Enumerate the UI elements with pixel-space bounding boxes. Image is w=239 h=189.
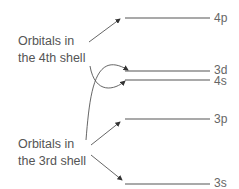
orbital-label-3p: 3p: [214, 112, 227, 126]
orbital-label-3s: 3s: [214, 176, 227, 189]
orbital-label-4p: 4p: [214, 11, 227, 25]
label-3rd-shell: Orbitals in the 3rd shell: [18, 136, 86, 170]
arrow-4th-to-4p: [89, 19, 120, 42]
label-line: the 4th shell: [18, 50, 85, 67]
arrow-3rd-to-3s: [91, 155, 122, 180]
arrow-3rd-to-3p: [91, 122, 120, 145]
label-line: Orbitals in: [18, 136, 86, 153]
label-line: the 3rd shell: [18, 153, 86, 170]
arrow-4th-to-4s: [90, 66, 125, 88]
label-line: Orbitals in: [18, 33, 85, 50]
label-4th-shell: Orbitals in the 4th shell: [18, 33, 85, 67]
orbital-label-4s: 4s: [214, 74, 227, 88]
